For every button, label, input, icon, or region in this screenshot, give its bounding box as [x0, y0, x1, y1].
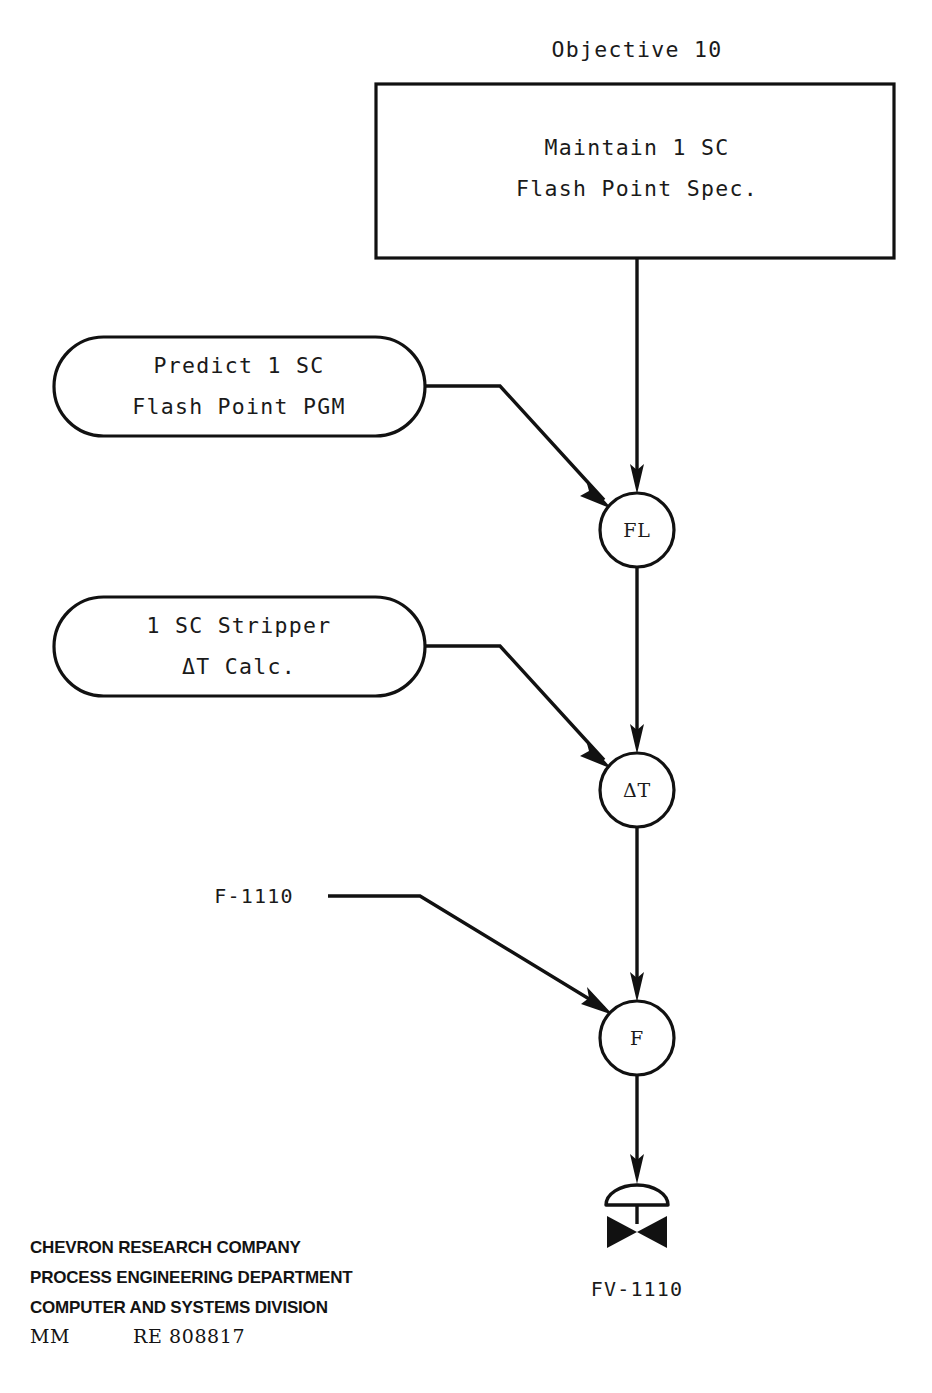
objective-box-line1: Maintain 1 SC	[544, 135, 729, 160]
delta-t-node[interactable]: ΔT	[600, 753, 674, 827]
arrowhead-predict-to-fl	[580, 480, 612, 509]
program-block-stripper-delta-t[interactable]: 1 SC Stripper ΔT Calc.	[54, 597, 425, 696]
objective-box-outline	[376, 84, 894, 258]
objective-box[interactable]: Maintain 1 SC Flash Point Spec.	[376, 84, 894, 258]
program-block-outline	[54, 597, 425, 696]
program-block-predict-flash-point[interactable]: Predict 1 SC Flash Point PGM	[54, 337, 425, 436]
objective-box-line2: Flash Point Spec.	[516, 176, 758, 201]
control-valve-symbol[interactable]	[606, 1185, 668, 1248]
valve-body-left-icon	[607, 1216, 637, 1248]
connector-stripper-to-deltat	[425, 646, 604, 760]
fl-node-label: FL	[623, 519, 650, 541]
program-block-outline	[54, 337, 425, 436]
title-block-footer: CHEVRON RESEARCH COMPANY PROCESS ENGINEE…	[30, 1238, 353, 1347]
connector-predict-to-fl	[425, 386, 604, 500]
program-block-line2: ΔT Calc.	[182, 654, 296, 679]
valve-actuator-icon	[606, 1185, 668, 1205]
diagram-canvas: Objective 10 Maintain 1 SC Flash Point S…	[0, 0, 932, 1393]
footer-division-line: COMPUTER AND SYSTEMS DIVISION	[30, 1298, 328, 1317]
input-tag-label: F-1110	[214, 884, 293, 908]
arrowhead-stripper-to-deltat	[580, 740, 612, 769]
arrowhead-f1110-to-f	[581, 987, 613, 1015]
connector-f1110-to-f	[328, 896, 604, 1008]
valve-body-right-icon	[637, 1216, 667, 1248]
fl-node[interactable]: FL	[600, 493, 674, 567]
footer-initials: MM	[30, 1325, 70, 1347]
page-title: Objective 10	[552, 37, 723, 62]
footer-document-number: RE 808817	[133, 1325, 245, 1347]
f-node[interactable]: F	[600, 1001, 674, 1075]
delta-t-node-label: ΔT	[623, 779, 651, 801]
f-node-label: F	[630, 1027, 644, 1049]
footer-department-line: PROCESS ENGINEERING DEPARTMENT	[30, 1268, 353, 1287]
footer-company-line: CHEVRON RESEARCH COMPANY	[30, 1238, 302, 1257]
process-control-diagram: Objective 10 Maintain 1 SC Flash Point S…	[0, 0, 932, 1393]
program-block-line1: 1 SC Stripper	[146, 613, 331, 638]
program-block-line1: Predict 1 SC	[154, 353, 325, 378]
program-block-line2: Flash Point PGM	[132, 394, 346, 419]
valve-tag-label: FV-1110	[591, 1277, 684, 1301]
